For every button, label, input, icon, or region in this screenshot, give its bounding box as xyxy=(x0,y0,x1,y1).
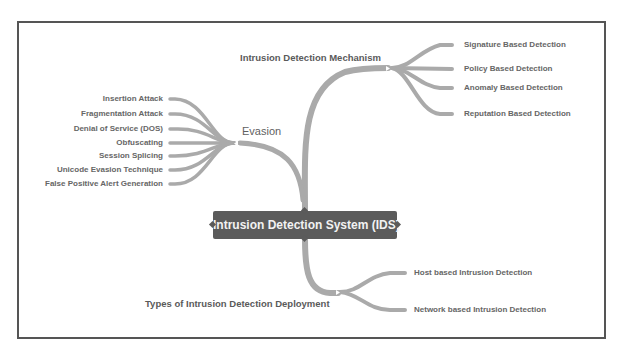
evasion-child-unicode[interactable]: Unicode Evasion Technique xyxy=(57,165,163,175)
branch-deployment-label[interactable]: Types of Intrusion Detection Deployment xyxy=(145,299,330,309)
branch-evasion-label[interactable]: Evasion xyxy=(242,126,281,136)
evasion-child-obfuscating[interactable]: Obfuscating xyxy=(116,138,163,148)
evasion-child-fragmentation[interactable]: Fragmentation Attack xyxy=(81,109,163,119)
deployment-child-host[interactable]: Host based Intrusion Detection xyxy=(414,268,532,278)
evasion-child-session-splicing[interactable]: Session Splicing xyxy=(99,151,163,161)
mechanism-child-reputation[interactable]: Reputation Based Detection xyxy=(464,109,571,119)
deployment-child-network[interactable]: Network based Intrusion Detection xyxy=(414,305,546,315)
evasion-child-insertion[interactable]: Insertion Attack xyxy=(103,94,163,104)
mechanism-child-anomaly[interactable]: Anomaly Based Detection xyxy=(464,83,563,93)
evasion-child-dos[interactable]: Denial of Service (DOS) xyxy=(74,124,163,134)
root-node-label: Intrusion Detection System (IDS) xyxy=(213,218,400,232)
branch-mechanism-label[interactable]: Intrusion Detection Mechanism xyxy=(240,53,381,63)
mechanism-child-signature[interactable]: Signature Based Detection xyxy=(464,40,566,50)
evasion-child-false-positive[interactable]: False Positive Alert Generation xyxy=(45,179,163,189)
mechanism-child-policy[interactable]: Policy Based Detection xyxy=(464,64,552,74)
